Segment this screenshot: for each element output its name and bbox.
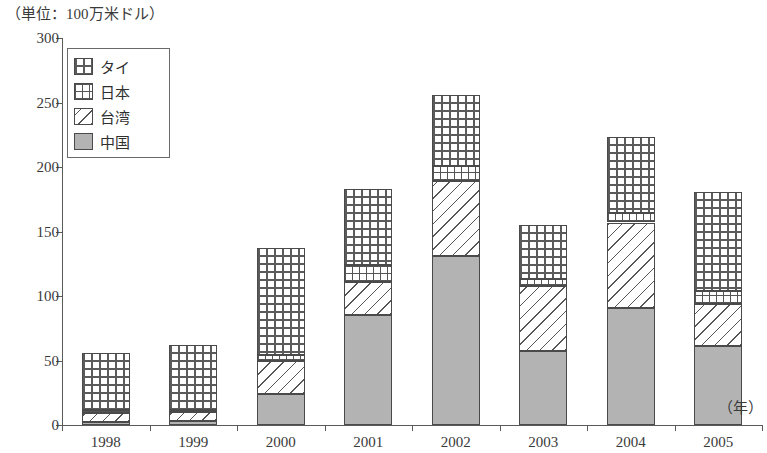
stacked-bar-chart: （単位：100万米ドル） 050100150200250300 19981999…: [0, 0, 767, 453]
bar-1999[interactable]: [169, 345, 217, 425]
x-axis-unit-label: （年）: [718, 396, 763, 417]
x-tick-label: 1998: [91, 434, 121, 451]
x-tick-label: 2003: [528, 434, 558, 451]
y-tick-label: 250: [37, 94, 60, 111]
y-tick-label: 300: [37, 30, 60, 47]
x-tick-mark: [587, 425, 588, 431]
x-tick-label: 2002: [441, 434, 471, 451]
x-tick-label: 1999: [178, 434, 208, 451]
bar-segment-taiwan: [257, 361, 305, 395]
bar-segment-thailand: [694, 192, 742, 291]
legend-label-taiwan: 台湾: [100, 106, 130, 127]
bar-segment-thailand: [344, 189, 392, 265]
bar-segment-japan: [257, 355, 305, 360]
legend-label-china: 中国: [100, 131, 130, 152]
bar-segment-thailand: [432, 95, 480, 166]
legend-item-thailand[interactable]: タイ: [74, 54, 163, 79]
bar-segment-taiwan: [432, 181, 480, 256]
bar-segment-china: [607, 308, 655, 425]
legend-swatch-japan-icon: [74, 83, 93, 100]
x-tick-label: 2000: [266, 434, 296, 451]
legend-label-thailand: タイ: [100, 56, 130, 77]
bar-segment-thailand: [257, 248, 305, 355]
y-tick-label: 50: [44, 352, 59, 369]
y-tick-label: 100: [37, 288, 60, 305]
bar-segment-japan: [169, 410, 217, 413]
legend-item-japan[interactable]: 日本: [74, 79, 163, 104]
bar-segment-thailand: [607, 137, 655, 213]
bar-2002[interactable]: [432, 95, 480, 425]
bar-segment-taiwan: [169, 412, 217, 421]
bar-2005[interactable]: [694, 192, 742, 425]
bar-2004[interactable]: [607, 137, 655, 425]
bar-segment-china: [432, 256, 480, 425]
bar-1998[interactable]: [82, 353, 130, 425]
x-tick-mark: [62, 425, 63, 431]
x-tick-label: 2004: [616, 434, 646, 451]
bar-segment-japan: [344, 265, 392, 282]
bar-segment-japan: [432, 166, 480, 181]
bar-segment-taiwan: [82, 413, 130, 422]
legend: タイ日本台湾中国: [67, 48, 170, 158]
x-tick-mark: [237, 425, 238, 431]
x-tick-mark: [762, 425, 763, 431]
y-tick-label: 150: [37, 223, 60, 240]
bar-segment-japan: [519, 279, 567, 285]
legend-swatch-thailand-icon: [74, 58, 93, 75]
bar-segment-thailand: [82, 353, 130, 410]
y-tick-label: 200: [37, 159, 60, 176]
bar-segment-china: [169, 421, 217, 425]
x-tick-mark: [150, 425, 151, 431]
x-tick-mark: [500, 425, 501, 431]
bar-segment-china: [519, 351, 567, 425]
bar-segment-china: [344, 315, 392, 425]
legend-item-taiwan[interactable]: 台湾: [74, 104, 163, 129]
bar-2003[interactable]: [519, 225, 567, 425]
bar-segment-thailand: [169, 345, 217, 410]
bar-segment-thailand: [519, 225, 567, 279]
x-tick-mark: [675, 425, 676, 431]
y-tick-label: 0: [52, 417, 60, 434]
bar-segment-china: [257, 394, 305, 425]
legend-swatch-taiwan-icon: [74, 108, 93, 125]
bar-segment-taiwan: [344, 282, 392, 316]
bar-2001[interactable]: [344, 189, 392, 425]
y-axis-line: [62, 38, 63, 425]
bar-segment-taiwan: [694, 304, 742, 347]
bar-2000[interactable]: [257, 248, 305, 425]
unit-caption: （単位：100万米ドル）: [6, 2, 164, 23]
bar-segment-china: [82, 422, 130, 425]
x-tick-mark: [325, 425, 326, 431]
x-tick-label: 2001: [353, 434, 383, 451]
bar-segment-japan: [82, 410, 130, 414]
legend-label-japan: 日本: [100, 81, 130, 102]
bar-segment-taiwan: [607, 223, 655, 308]
legend-swatch-china-icon: [74, 133, 93, 150]
legend-item-china[interactable]: 中国: [74, 129, 163, 154]
bar-segment-japan: [607, 213, 655, 222]
x-tick-label: 2005: [703, 434, 733, 451]
bar-segment-japan: [694, 291, 742, 304]
bar-segment-taiwan: [519, 286, 567, 352]
x-tick-mark: [412, 425, 413, 431]
